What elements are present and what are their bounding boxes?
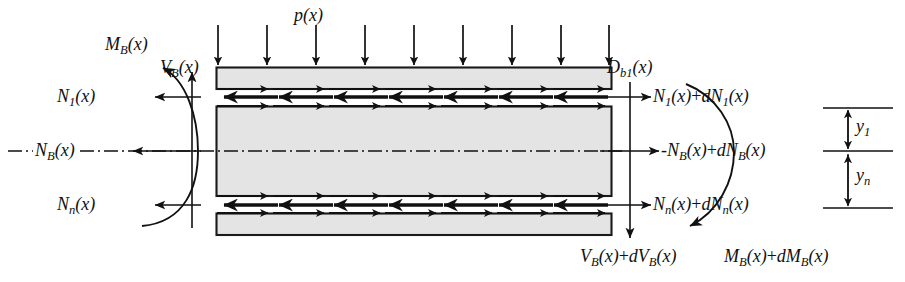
left-shear-sub: B [171,66,179,80]
load-label: p(x) [294,6,323,24]
left-face-forces [133,72,201,228]
r-m-plus: + [767,246,777,266]
r-nn-a: Nn(x) [653,194,691,214]
r-nb-b: dNB(x) [717,140,766,160]
left-nb-base: N [35,140,47,160]
left-moment-label: MB(x) [105,35,148,56]
left-shear-arg: (x) [179,57,199,77]
distributed-load-arrows [218,25,609,65]
r-n1-a: N1(x) [653,86,691,106]
load-label-text: p [294,5,303,25]
r-v-plus: + [619,246,629,266]
right-moment-label: MB(x)+dMB(x) [724,247,829,268]
load-label-arg: (x) [303,5,323,25]
right-dbond-arg: (x) [633,57,653,77]
figure-canvas: p(x) MB(x) VB(x) N1(x) NB(x) Nn(x) Db1(x… [0,0,905,282]
dim-y1-sub: 1 [864,125,870,139]
right-dbond-label: Db1(x) [607,58,653,79]
left-nn-base: N [57,194,69,214]
r-nn-b: dNn(x) [701,194,748,214]
left-n1-label: N1(x) [57,87,95,108]
left-moment-arc [142,68,198,226]
beam-layer-bottom [217,214,612,236]
left-n1-base: N [57,86,69,106]
dim-y1-base: y [856,116,864,136]
left-shear-label: VB(x) [160,58,199,79]
left-nn-label: Nn(x) [57,195,95,216]
dim-yn-label: yn [856,166,870,187]
r-nn-plus: + [691,194,701,214]
dim-y1-label: y1 [856,117,870,138]
right-dbond-base: D [607,57,620,77]
dim-yn-sub: n [864,174,870,188]
right-n1-label: N1(x)+dN1(x) [653,87,749,108]
r-nb-plus: + [707,140,717,160]
r-n1-plus: + [691,86,701,106]
dim-yn-base: y [856,165,864,185]
left-nb-label: NB(x) [33,141,77,162]
beam-layer-top [217,68,612,90]
r-nb-a: NB(x) [667,140,707,160]
r-n1-b: dN1(x) [701,86,748,106]
right-shear-label: VB(x)+dVB(x) [580,247,677,268]
r-v-a: VB(x) [580,246,619,266]
right-nb-label: -NB(x)+dNB(x) [661,141,766,162]
left-n1-arg: (x) [75,86,95,106]
r-m-b: dMB(x) [777,246,829,266]
r-m-a: MB(x) [724,246,767,266]
left-moment-arg: (x) [128,34,148,54]
left-nn-arg: (x) [75,194,95,214]
left-shear-base: V [160,57,171,77]
left-moment-base: M [105,34,120,54]
left-moment-sub: B [120,43,128,57]
right-dbond-sub: b1 [620,66,633,80]
right-nn-label: Nn(x)+dNn(x) [653,195,749,216]
left-nb-arg: (x) [55,140,75,160]
left-nb-sub: B [47,149,55,163]
r-v-b: dVB(x) [629,246,677,266]
